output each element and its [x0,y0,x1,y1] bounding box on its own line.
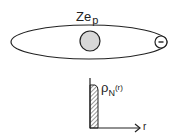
charge-text: Ze [76,9,91,24]
density-argument: (r) [115,83,123,92]
density-distribution [90,85,98,128]
density-label: ρN(r) [101,80,123,95]
nucleus [80,31,100,51]
x-axis-label: r [143,121,146,132]
nuclear-charge-label: Zep [76,9,98,24]
r-label: r [143,121,146,132]
charge-subscript: p [92,14,98,26]
density-subscript: N [108,88,115,98]
